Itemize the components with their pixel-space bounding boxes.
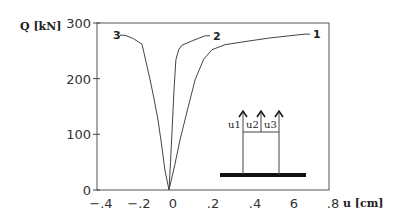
y-tick-label: 300 bbox=[66, 16, 91, 31]
inset-label-u1: u1 bbox=[228, 119, 241, 130]
curve-1 bbox=[169, 34, 305, 190]
x-tick-label: 6 bbox=[290, 196, 298, 211]
curve-label-1: 1 bbox=[313, 28, 321, 41]
curve-label-2: 2 bbox=[213, 30, 221, 43]
x-axis-title: u [cm] bbox=[343, 197, 384, 210]
curve-label-3: 3 bbox=[113, 29, 121, 42]
inset-label-u2: u2 bbox=[246, 119, 259, 130]
x-tick-label: −.2 bbox=[127, 196, 150, 211]
x-ticks: −.4−.20.2.46.8 bbox=[89, 196, 339, 211]
y-axis-title: Q [kN] bbox=[20, 20, 62, 33]
x-tick-label: .4 bbox=[249, 196, 261, 211]
x-tick-label: −.4 bbox=[89, 196, 112, 211]
inset-label-u3: u3 bbox=[264, 119, 277, 130]
x-tick-label: 0 bbox=[169, 196, 177, 211]
y-tick-label: 100 bbox=[66, 127, 91, 142]
chart: Q [kN] u [cm] 0100200300 −.4−.20.2.46.8 … bbox=[0, 0, 400, 219]
plot-frame bbox=[97, 23, 329, 190]
inset-diagram: u1 u2 u3 bbox=[220, 111, 306, 175]
y-ticks: 0100200300 bbox=[66, 16, 100, 198]
curve-3 bbox=[125, 35, 169, 190]
y-tick-label: 200 bbox=[66, 72, 91, 87]
x-tick-label: .2 bbox=[207, 196, 219, 211]
x-tick-label: .8 bbox=[327, 196, 339, 211]
